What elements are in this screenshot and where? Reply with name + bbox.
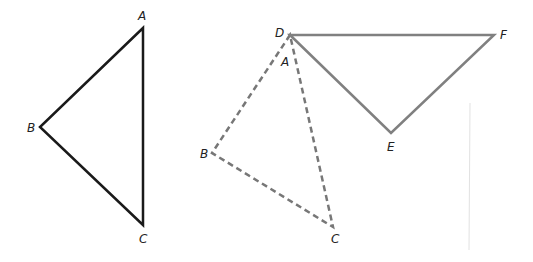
label-f: F — [500, 28, 508, 42]
label-c: C — [139, 232, 148, 246]
triangle-abc-rotated-dashed — [212, 35, 333, 227]
triangle-def — [290, 35, 494, 133]
label-a: A — [137, 9, 146, 23]
label-c-rotated: C — [331, 232, 340, 246]
label-b: B — [27, 121, 35, 135]
triangle-abc — [40, 28, 143, 225]
divider-line — [469, 103, 470, 250]
label-b-rotated: B — [200, 147, 208, 161]
diagram-canvas: A B C D E F A B C — [0, 0, 533, 262]
label-e: E — [387, 140, 395, 154]
label-a-rotated: A — [280, 55, 289, 69]
label-d: D — [275, 26, 284, 40]
